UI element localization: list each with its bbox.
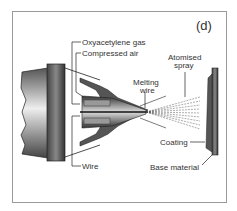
coating [206,74,212,152]
label-oxyacetylene-gas: Oxyacetylene gas [82,38,146,47]
base-material [212,68,218,155]
label-compressed-air: Compressed air [82,49,138,58]
panel-label: (d) [196,18,212,33]
label-atomised-spray-2: spray [174,61,194,70]
atomised-spray [146,97,200,129]
label-base-material: Base material [150,163,199,172]
gun-body [21,68,48,158]
gun-flange [47,64,65,161]
label-coating: Coating [160,138,188,147]
label-wire: Wire [82,162,98,171]
label-melting-wire-2: wire [140,86,155,95]
